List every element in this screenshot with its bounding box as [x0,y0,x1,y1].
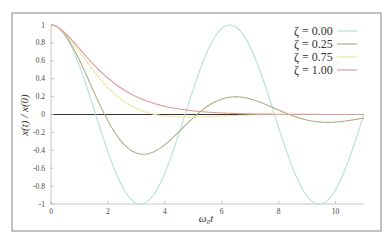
y-tick-label: -0.6 [33,164,45,173]
x-tick-label: 4 [163,207,167,216]
x-tick-label: 2 [106,207,110,216]
x-tick-label: 0 [49,207,53,216]
x-axis-label: ω₀t [199,212,215,224]
y-tick-label: 0 [41,110,45,119]
y-tick-label: -1 [39,200,45,209]
x-tick-label: 6 [220,207,224,216]
x-axis-label-text: ω₀t [199,212,215,224]
y-tick-label: 1 [41,21,45,30]
y-axis-label: x(t) / x(0) [18,94,31,137]
x-tick-label: 10 [332,207,340,216]
y-tick-label: -0.8 [33,182,45,191]
legend-label: ζ = 0.75 [294,50,333,64]
x-tick-label: 8 [277,207,281,216]
y-axis-label-text: x(t) / x(0) [18,94,31,137]
y-tick-label: 0.8 [36,38,46,47]
legend-label: ζ = 0.25 [294,37,333,51]
legend-label: ζ = 0.00 [294,24,333,38]
y-tick-label: 0.2 [36,92,46,101]
y-tick-label: 0.4 [36,74,46,83]
y-tick-label: -0.4 [33,146,45,155]
y-tick-label: 0.6 [36,56,46,65]
chart: -1-0.8-0.6-0.4-0.200.20.40.60.810246810 … [0,0,392,244]
legend-label: ζ = 1.00 [294,63,333,77]
y-tick-label: -0.2 [33,128,45,137]
